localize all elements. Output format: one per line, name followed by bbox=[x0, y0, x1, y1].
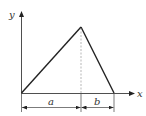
y-axis-label: y bbox=[8, 9, 15, 20]
dimension-label-b: b bbox=[94, 96, 100, 107]
dimension-label-a: a bbox=[48, 96, 54, 107]
diagram-canvas: y x a b bbox=[0, 0, 146, 116]
triangle-left-side bbox=[22, 27, 82, 93]
x-axis-label: x bbox=[137, 88, 143, 99]
triangle-right-side bbox=[81, 27, 114, 93]
triangle-diagram: y x a b bbox=[0, 0, 146, 116]
